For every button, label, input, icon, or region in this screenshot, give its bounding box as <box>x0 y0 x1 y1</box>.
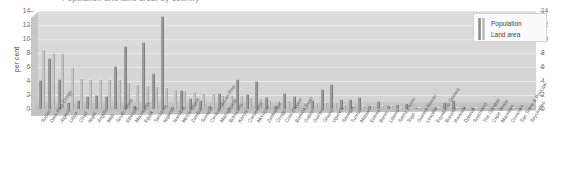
bar-cap <box>89 79 92 80</box>
bar-cap <box>255 81 258 82</box>
bar-side <box>82 79 83 109</box>
bar-side <box>345 105 346 109</box>
legend-label-land-area: Land area <box>491 32 520 39</box>
legend-swatch-land-area <box>482 18 485 40</box>
bar-group <box>141 11 150 109</box>
bar-group <box>179 11 188 109</box>
bar-land-area <box>334 103 336 109</box>
bar-cap <box>240 95 243 96</box>
bar-side <box>392 106 393 109</box>
bar-cap <box>246 94 249 95</box>
bar-population <box>321 90 323 109</box>
bar-cap <box>334 102 337 103</box>
bar-cap <box>61 53 64 54</box>
axis-tick-8: 8 <box>26 50 30 57</box>
bar-side <box>91 80 92 109</box>
bar-land-area <box>80 79 82 109</box>
bar-population <box>387 106 389 109</box>
bar-group <box>282 11 291 109</box>
bar-land-area <box>399 108 401 109</box>
bar-cap <box>80 78 83 79</box>
bar-group <box>132 11 141 109</box>
bar-cap <box>174 89 177 90</box>
bar-group <box>273 11 282 109</box>
bar-group <box>376 11 385 109</box>
bar-cap <box>283 93 286 94</box>
bar-side <box>73 68 74 109</box>
bar-group <box>264 11 273 109</box>
bar-land-area <box>71 68 73 109</box>
bar-land-area <box>52 54 54 109</box>
bar-population <box>161 17 163 109</box>
bar-chart: Population and land area, by country per… <box>0 0 566 170</box>
bar-cap <box>236 79 239 80</box>
bar-population <box>86 97 88 109</box>
bar-cap <box>268 99 271 100</box>
bar-land-area <box>390 106 392 109</box>
bar-cap <box>287 100 290 101</box>
bar-side <box>251 98 252 109</box>
bar-group <box>160 11 169 109</box>
bar-population <box>415 108 417 109</box>
bar-cap <box>193 91 196 92</box>
bar-cap <box>71 67 74 68</box>
bar-population <box>77 101 79 109</box>
bar-cap <box>152 73 155 74</box>
bar-cap <box>396 104 399 105</box>
bar-land-area <box>42 50 44 109</box>
bar-land-area <box>202 94 204 109</box>
bar-cap <box>218 93 221 94</box>
bar-cap <box>390 105 393 106</box>
bar-side <box>138 85 139 109</box>
bar-cap <box>293 96 296 97</box>
bar-cap <box>315 102 318 103</box>
bar-group <box>339 11 348 109</box>
bar-cap <box>202 93 205 94</box>
bar-cap <box>371 105 374 106</box>
bar-cap <box>52 53 55 54</box>
bar-land-area <box>371 106 373 109</box>
bar-group <box>94 11 103 109</box>
bar-population <box>246 95 248 109</box>
bar-cap <box>165 87 168 88</box>
bar-group <box>404 11 413 109</box>
bar-land-area <box>108 80 110 109</box>
axis-tick-10: 10 <box>23 36 30 43</box>
axis-tick-14: 14 <box>23 8 30 15</box>
bar-group <box>329 11 338 109</box>
bar-cap <box>340 99 343 100</box>
bar-land-area <box>155 87 157 109</box>
bar-population <box>39 81 41 109</box>
axis-tick-6: 6 <box>541 64 545 71</box>
legend[interactable]: Population Land area <box>473 13 547 42</box>
bar-cap <box>399 107 402 108</box>
bar-cap <box>259 98 262 99</box>
bar-group <box>38 11 47 109</box>
bar-cap <box>118 79 121 80</box>
axis-tick-2: 2 <box>26 92 30 99</box>
legend-label-population: Population <box>491 21 522 28</box>
bar-group <box>386 11 395 109</box>
bar-side <box>204 94 205 109</box>
legend-swatches <box>478 17 487 40</box>
bar-group <box>198 11 207 109</box>
bar-side <box>326 103 327 109</box>
bar-group <box>414 11 423 109</box>
axis-tick-dash <box>540 11 544 12</box>
bar-land-area <box>315 103 317 109</box>
bar-cap <box>146 85 149 86</box>
bar-cap <box>212 93 215 94</box>
bar-land-area <box>136 85 138 109</box>
bar-cap <box>142 42 145 43</box>
bar-population <box>152 74 154 109</box>
bar-cap <box>418 107 421 108</box>
bar-cap <box>265 97 268 98</box>
bar-cap <box>321 89 324 90</box>
bar-land-area <box>249 98 251 109</box>
bar-group <box>254 11 263 109</box>
bar-land-area <box>174 90 176 109</box>
bar-side <box>157 87 158 109</box>
bar-side <box>176 90 177 109</box>
bar-series-layer <box>38 11 536 109</box>
bar-cap <box>381 105 384 106</box>
